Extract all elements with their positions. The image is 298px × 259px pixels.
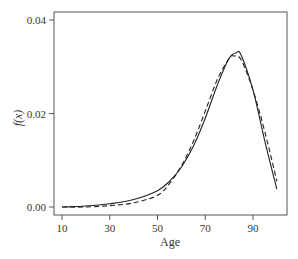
y-tick-label: 0.02 <box>27 108 46 120</box>
x-tick-label: 50 <box>152 222 164 234</box>
x-axis-title: Age <box>160 235 180 249</box>
x-tick-label: 10 <box>57 222 69 234</box>
y-axis-title: f(x) <box>11 110 25 127</box>
plot-frame <box>54 12 287 215</box>
chart: 10305070900.000.020.04 Age f(x) <box>0 0 298 259</box>
x-tick-label: 70 <box>200 222 212 234</box>
x-tick-label: 30 <box>104 222 116 234</box>
x-tick-label: 90 <box>248 222 260 234</box>
dashed-series-line <box>62 56 277 208</box>
series-lines <box>62 51 277 207</box>
y-tick-label: 0.04 <box>27 14 47 26</box>
y-tick-label: 0.00 <box>27 201 47 213</box>
